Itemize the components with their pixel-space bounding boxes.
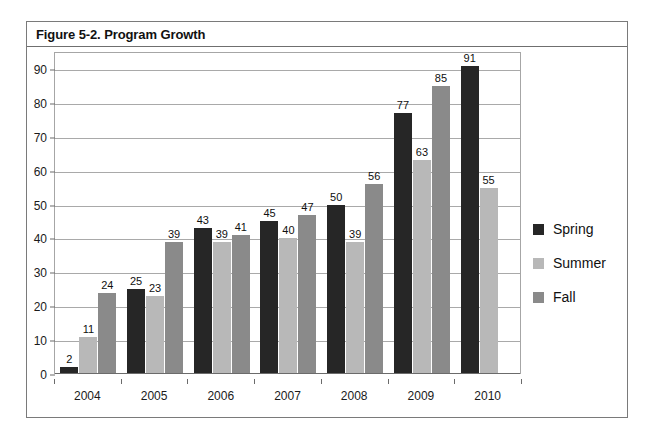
bar-group: 252339: [122, 53, 189, 374]
bar-group: 21124: [55, 53, 122, 374]
figure-frame: Figure 5-2. Program Growth 0102030405060…: [26, 21, 628, 418]
bar[interactable]: [260, 221, 278, 374]
legend-swatch-icon: [533, 292, 544, 303]
bar-group: 503956: [322, 53, 389, 374]
legend-label: Spring: [553, 221, 593, 237]
bar[interactable]: [346, 242, 364, 374]
bar-value-label: 43: [188, 214, 218, 226]
bar[interactable]: [194, 228, 212, 374]
x-axis-baseline: [55, 373, 520, 374]
bar[interactable]: [413, 160, 431, 374]
figure-title: Figure 5-2. Program Growth: [27, 27, 205, 42]
bar-value-label: 77: [388, 99, 418, 111]
legend-label: Fall: [553, 289, 576, 305]
bar-value-label: 85: [426, 72, 456, 84]
bar-value-label: 39: [159, 228, 189, 240]
x-axis-tick-mark: [521, 379, 522, 384]
legend-label: Summer: [553, 255, 606, 271]
chart-legend: SpringSummerFall: [533, 212, 606, 314]
plot-area: 0102030405060708090 21124252339433941454…: [54, 52, 521, 374]
bar[interactable]: [127, 289, 145, 374]
bar-value-label: 56: [359, 170, 389, 182]
bars-layer: 211242523394339414540475039567763859155: [55, 53, 520, 374]
bar[interactable]: [232, 235, 250, 374]
bar-value-label: 45: [255, 207, 285, 219]
chart-body: 0102030405060708090 21124252339433941454…: [27, 47, 627, 417]
bar-group: 776385: [389, 53, 456, 374]
bar[interactable]: [79, 337, 97, 374]
y-axis-tick-label: 50: [34, 199, 47, 213]
legend-item[interactable]: Fall: [533, 280, 606, 314]
bar-value-label: 24: [92, 279, 122, 291]
bar[interactable]: [298, 215, 316, 374]
bar[interactable]: [146, 296, 164, 374]
x-axis-tick-label: 2005: [124, 389, 184, 403]
x-axis-tick-mark: [388, 379, 389, 384]
y-axis-tick-mark: [50, 375, 55, 376]
x-axis-tick-mark: [321, 379, 322, 384]
y-axis-tick-label: 0: [40, 368, 47, 382]
legend-swatch-icon: [533, 224, 544, 235]
x-axis-tick-mark: [187, 379, 188, 384]
bar-group: 433941: [188, 53, 255, 374]
bar-group: 9155: [455, 53, 522, 374]
y-axis-tick-label: 20: [34, 300, 47, 314]
bar[interactable]: [165, 242, 183, 374]
bar-value-label: 41: [226, 221, 256, 233]
x-axis-tick-label: 2006: [191, 389, 251, 403]
x-axis-tick-label: 2009: [391, 389, 451, 403]
x-axis-labels: 2004200520062007200820092010: [54, 379, 521, 409]
legend-item[interactable]: Summer: [533, 246, 606, 280]
bar[interactable]: [365, 184, 383, 374]
figure-title-bar: Figure 5-2. Program Growth: [27, 22, 627, 47]
y-axis-tick-label: 90: [34, 63, 47, 77]
y-axis-tick-label: 60: [34, 165, 47, 179]
y-axis-tick-label: 10: [34, 334, 47, 348]
bar-value-label: 47: [292, 201, 322, 213]
bar-group: 454047: [255, 53, 322, 374]
legend-swatch-icon: [533, 258, 544, 269]
bar[interactable]: [213, 242, 231, 374]
bar[interactable]: [461, 66, 479, 374]
x-axis-tick-mark: [454, 379, 455, 384]
x-axis-tick-label: 2007: [258, 389, 318, 403]
x-axis-tick-mark: [254, 379, 255, 384]
y-axis-tick-label: 40: [34, 232, 47, 246]
y-axis-tick-label: 80: [34, 97, 47, 111]
x-axis-tick-mark: [54, 379, 55, 384]
bar-value-label: 55: [474, 174, 504, 186]
x-axis-tick-label: 2008: [324, 389, 384, 403]
y-axis-tick-label: 30: [34, 266, 47, 280]
legend-item[interactable]: Spring: [533, 212, 606, 246]
bar[interactable]: [480, 188, 498, 374]
bar[interactable]: [98, 293, 116, 374]
bar[interactable]: [279, 238, 297, 374]
bar[interactable]: [432, 86, 450, 374]
x-axis-tick-mark: [121, 379, 122, 384]
y-axis-tick-label: 70: [34, 131, 47, 145]
bar-value-label: 50: [321, 191, 351, 203]
bar-value-label: 91: [455, 52, 485, 64]
x-axis-tick-label: 2010: [458, 389, 518, 403]
x-axis-tick-label: 2004: [57, 389, 117, 403]
